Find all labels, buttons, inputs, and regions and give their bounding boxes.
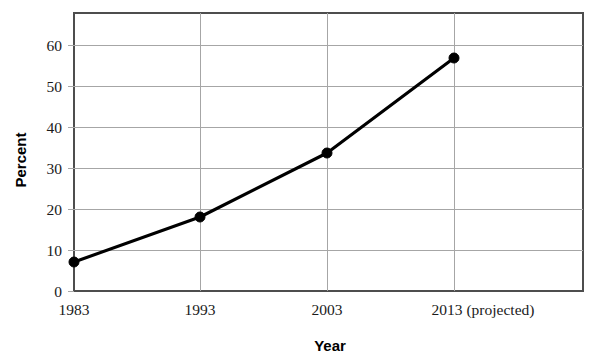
data-point-1993 (195, 212, 205, 222)
y-tick-label-20: 20 (47, 201, 63, 218)
data-point-1983 (69, 257, 79, 267)
y-tick-label-50: 50 (47, 78, 63, 95)
chart-page: 60 50 40 30 20 10 0 1983 1993 2003 2013 … (0, 0, 591, 363)
y-tick-label-30: 30 (47, 160, 63, 177)
x-tick-label-2013: 2013 (projected) (432, 301, 535, 319)
y-tick-label-40: 40 (47, 119, 63, 136)
y-tick-label-0: 0 (54, 283, 62, 300)
data-point-2013 (449, 53, 459, 63)
x-tick-label-1983: 1983 (59, 301, 90, 318)
y-axis-title: Percent (12, 132, 29, 187)
y-tick-label-10: 10 (47, 242, 63, 259)
data-point-2003 (322, 148, 332, 158)
x-tick-label-2003: 2003 (312, 301, 343, 318)
x-axis-title: Year (314, 337, 346, 354)
y-tick-label-60: 60 (47, 37, 63, 54)
line-chart: 60 50 40 30 20 10 0 1983 1993 2003 2013 … (0, 0, 591, 363)
x-tick-label-1993: 1993 (185, 301, 216, 318)
